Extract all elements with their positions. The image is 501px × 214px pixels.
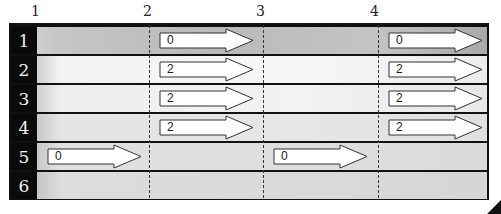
column-divider-2 <box>149 25 150 198</box>
arrow-r2-c2: 2 <box>159 57 255 82</box>
arrow-r4-c2: 2 <box>159 115 255 140</box>
column-label-1: 1 <box>31 3 40 19</box>
column-label-2: 2 <box>143 3 152 19</box>
row-track-6 <box>37 172 487 199</box>
arrow-value: 0 <box>281 149 288 163</box>
arrow-r5-c3: 0 <box>273 144 369 169</box>
arrow-r5-c1: 0 <box>47 144 143 169</box>
arrow-value: 2 <box>167 62 174 76</box>
row-label-1: 1 <box>11 27 37 54</box>
arrow-r4-c4: 2 <box>388 115 484 140</box>
page-corner-decoration <box>487 200 501 214</box>
arrow-value: 2 <box>396 91 403 105</box>
column-divider-3 <box>263 25 264 198</box>
timing-grid: 1 2 3 4 5 6 0 0 2 2 2 <box>9 23 489 200</box>
column-label-4: 4 <box>370 3 379 19</box>
arrow-value: 0 <box>167 33 174 47</box>
arrow-value: 0 <box>396 33 403 47</box>
column-divider-4 <box>378 25 379 198</box>
arrow-r1-c4: 0 <box>388 28 484 53</box>
row-label-3: 3 <box>11 85 37 112</box>
row-label-5: 5 <box>11 143 37 170</box>
grid-row-6: 6 <box>11 172 487 199</box>
arrow-r3-c2: 2 <box>159 86 255 111</box>
arrow-value: 0 <box>55 149 62 163</box>
arrow-r3-c4: 2 <box>388 86 484 111</box>
row-label-6: 6 <box>11 172 37 199</box>
arrow-value: 2 <box>396 62 403 76</box>
column-label-3: 3 <box>256 3 265 19</box>
arrow-value: 2 <box>396 120 403 134</box>
arrow-value: 2 <box>167 91 174 105</box>
row-label-4: 4 <box>11 114 37 141</box>
row-label-2: 2 <box>11 56 37 83</box>
arrow-r2-c4: 2 <box>388 57 484 82</box>
arrow-r1-c2: 0 <box>159 28 255 53</box>
arrow-value: 2 <box>167 120 174 134</box>
